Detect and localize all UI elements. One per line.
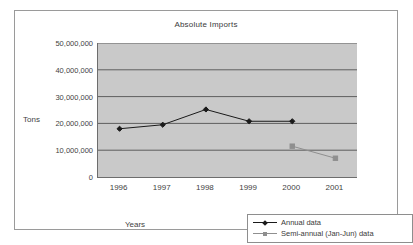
x-axis-tick-label: 1997	[153, 183, 171, 192]
legend-item-annual[interactable]: Annual data	[252, 217, 408, 228]
plot-svg	[98, 43, 357, 177]
y-axis-tick-label: 0	[89, 173, 93, 182]
legend-label: Annual data	[281, 218, 321, 227]
x-axis-tick-labels: 199619971998199920002001	[97, 183, 356, 197]
y-axis-tick-label: 20,000,000	[55, 119, 93, 128]
y-axis-tick-label: 30,000,000	[55, 92, 93, 101]
y-axis-title: Tons	[23, 115, 40, 124]
data-point-marker	[117, 126, 122, 131]
plot-area	[97, 43, 357, 178]
x-axis-tick-label: 1999	[239, 183, 257, 192]
legend-item-semi-annual[interactable]: Semi-annual (Jan-Jun) data	[252, 228, 408, 239]
chart-title: Absolute Imports	[15, 20, 397, 29]
x-axis-tick-label: 1996	[110, 183, 128, 192]
x-axis-tick-label: 1998	[196, 183, 214, 192]
chart-legend: Annual data Semi-annual (Jan-Jun) data	[247, 214, 413, 243]
data-point-marker	[333, 156, 337, 160]
x-axis-title: Years	[15, 220, 255, 229]
y-axis-tick-labels: 50,000,00040,000,00030,000,00020,000,000…	[33, 43, 93, 177]
legend-marker-diamond-icon	[252, 217, 278, 228]
data-point-marker	[290, 144, 294, 148]
x-axis-tick-label: 2000	[282, 183, 300, 192]
legend-label: Semi-annual (Jan-Jun) data	[281, 229, 374, 238]
series-line-2	[292, 146, 335, 158]
y-axis-tick-label: 50,000,000	[55, 39, 93, 48]
data-point-marker	[203, 107, 208, 112]
x-axis-tick-label: 2001	[326, 183, 344, 192]
y-axis-tick-label: 40,000,000	[55, 65, 93, 74]
y-axis-tick-label: 10,000,000	[55, 146, 93, 155]
legend-marker-square-icon	[252, 228, 278, 239]
chart-frame: Absolute Imports 50,000,00040,000,00030,…	[14, 10, 398, 230]
